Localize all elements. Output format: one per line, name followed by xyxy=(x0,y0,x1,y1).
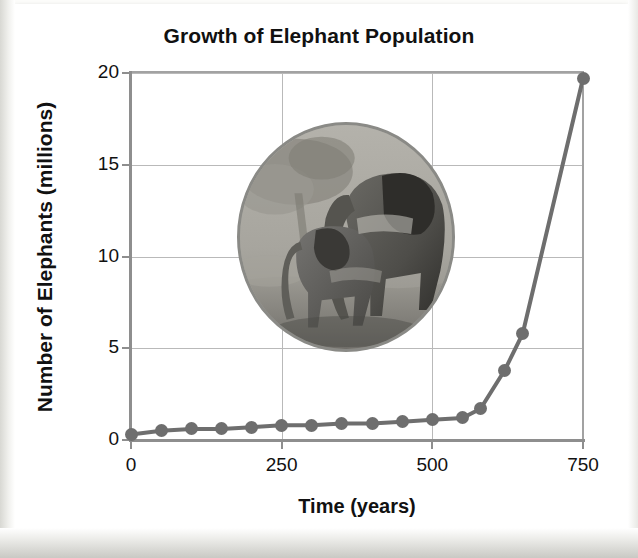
data-point xyxy=(498,364,511,377)
data-point xyxy=(155,424,168,437)
y-tick-mark xyxy=(122,72,131,74)
data-point xyxy=(125,428,138,441)
y-axis-label: Number of Elephants (millions) xyxy=(33,62,57,452)
data-point xyxy=(577,72,590,85)
y-tick-mark xyxy=(122,164,131,166)
data-point xyxy=(396,415,409,428)
x-tick-mark xyxy=(582,440,584,449)
series-line xyxy=(131,73,583,440)
y-tick-mark xyxy=(122,347,131,349)
y-tick-label: 0 xyxy=(73,428,119,450)
x-tick-label: 0 xyxy=(96,454,166,476)
x-tick-label: 500 xyxy=(397,454,467,476)
page-canvas: Growth of Elephant Population Number of … xyxy=(0,0,638,558)
y-tick-mark xyxy=(122,256,131,258)
chart-title: Growth of Elephant Population xyxy=(0,24,638,48)
data-point xyxy=(245,421,258,434)
y-tick-label: 15 xyxy=(73,153,119,175)
x-tick-label: 250 xyxy=(247,454,317,476)
x-tick-mark xyxy=(130,440,132,449)
y-tick-label: 5 xyxy=(73,336,119,358)
data-point xyxy=(366,417,379,430)
y-tick-label: 10 xyxy=(73,245,119,267)
x-tick-mark xyxy=(431,440,433,449)
x-tick-mark xyxy=(281,440,283,449)
line-chart: Growth of Elephant Population Number of … xyxy=(0,0,638,558)
data-point xyxy=(275,419,288,432)
x-axis-label: Time (years) xyxy=(131,495,583,518)
y-tick-label: 20 xyxy=(73,61,119,83)
x-tick-label: 750 xyxy=(548,454,618,476)
